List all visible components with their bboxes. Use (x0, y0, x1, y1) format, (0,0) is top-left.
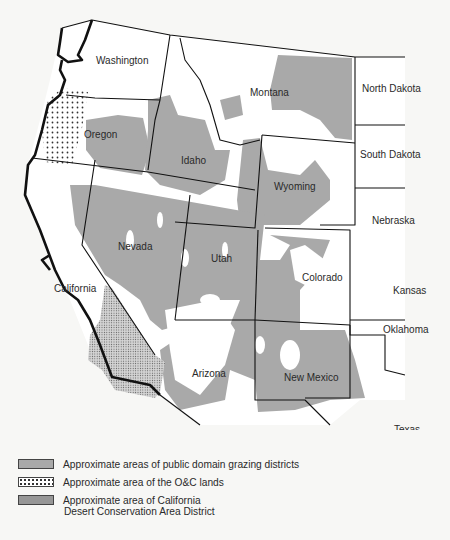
state-label-wyoming: Wyoming (274, 181, 316, 192)
oc-swatch-icon (18, 477, 54, 487)
state-label-new-mexico: New Mexico (284, 372, 339, 383)
state-label-nevada: Nevada (118, 241, 153, 252)
state-label-california: California (54, 283, 97, 294)
legend-label: Approximate area of California (63, 495, 201, 506)
state-label-montana: Montana (250, 87, 289, 98)
state-label-oklahoma: Oklahoma (383, 324, 429, 335)
state-label-north-dakota: North Dakota (362, 83, 421, 94)
state-label-kansas: Kansas (393, 285, 426, 296)
map-legend: Approximate areas of public domain grazi… (18, 455, 299, 517)
western-us-map: WashingtonOregonIdahoMontanaNorth Dakota… (0, 0, 450, 430)
legend-item-grazing: Approximate areas of public domain grazi… (18, 455, 299, 473)
state-label-arizona: Arizona (192, 368, 226, 379)
state-label-idaho: Idaho (181, 155, 206, 166)
legend-item-oc-lands: Approximate area of the O&C lands (18, 473, 299, 491)
state-label-south-dakota: South Dakota (360, 149, 421, 160)
state-label-utah: Utah (211, 253, 232, 264)
state-label-washington: Washington (96, 55, 148, 66)
state-label-texas: Texas (394, 424, 420, 430)
legend-sublabel: Desert Conservation Area District (64, 506, 299, 517)
state-label-colorado: Colorado (302, 272, 343, 283)
state-label-oregon: Oregon (84, 129, 117, 140)
legend-label: Approximate areas of public domain grazi… (63, 459, 299, 470)
state-label-nebraska: Nebraska (372, 215, 415, 226)
grazing-swatch-icon (18, 459, 54, 469)
cdca-swatch-icon (18, 495, 54, 505)
legend-label: Approximate area of the O&C lands (63, 477, 224, 488)
